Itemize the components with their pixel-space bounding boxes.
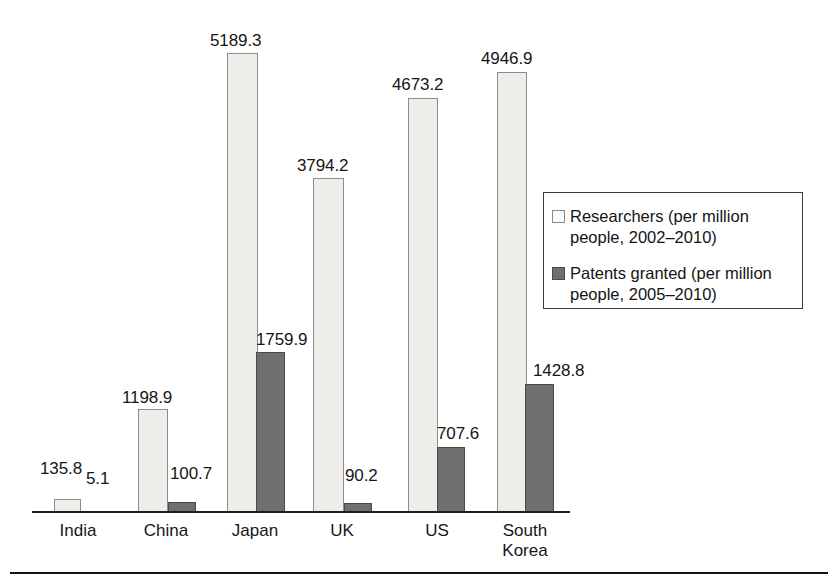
value-label-india-researchers: 135.8 xyxy=(40,460,82,478)
bar-japan-patents xyxy=(256,352,285,512)
legend-label-patents: Patents granted (per million people, 200… xyxy=(570,263,772,305)
bar-japan-researchers xyxy=(227,53,258,512)
value-label-china-patents: 100.7 xyxy=(170,465,212,483)
value-label-korea-researchers: 4946.9 xyxy=(481,50,532,68)
bottom-divider-rule xyxy=(10,572,828,574)
value-label-japan-patents: 1759.9 xyxy=(256,331,307,349)
bar-chart-plot-area: 135.8 5.1 India 1198.9 100.7 China 5189.… xyxy=(0,0,833,587)
value-label-korea-patents: 1428.8 xyxy=(533,362,584,380)
legend-item-researchers: Researchers (per million people, 2002–20… xyxy=(552,206,792,248)
bar-china-researchers xyxy=(138,409,168,512)
axis-label-china: China xyxy=(116,521,216,541)
bar-us-researchers xyxy=(408,98,438,512)
value-label-us-patents: 707.6 xyxy=(437,425,479,443)
legend-label-researchers: Researchers (per million people, 2002–20… xyxy=(570,206,749,248)
legend-swatch-patents-icon xyxy=(552,267,565,280)
legend-swatch-researchers-icon xyxy=(552,210,565,223)
axis-label-india: India xyxy=(28,521,128,541)
chart-legend: Researchers (per million people, 2002–20… xyxy=(543,192,803,309)
axis-label-south-korea: South Korea xyxy=(475,521,575,561)
x-axis-line xyxy=(32,511,570,513)
bar-us-patents xyxy=(437,447,465,512)
value-label-us-researchers: 4673.2 xyxy=(392,76,443,94)
axis-label-uk: UK xyxy=(292,521,392,541)
bar-uk-researchers xyxy=(313,178,344,512)
bar-korea-researchers xyxy=(497,72,527,512)
axis-label-us: US xyxy=(387,521,487,541)
value-label-china-researchers: 1198.9 xyxy=(122,389,172,407)
chart-page: 135.8 5.1 India 1198.9 100.7 China 5189.… xyxy=(0,0,833,587)
value-label-uk-researchers: 3794.2 xyxy=(297,157,348,175)
legend-item-patents: Patents granted (per million people, 200… xyxy=(552,263,792,305)
value-label-uk-patents: 90.2 xyxy=(345,467,378,485)
axis-label-japan: Japan xyxy=(205,521,305,541)
value-label-japan-researchers: 5189.3 xyxy=(210,32,261,50)
value-label-india-patents: 5.1 xyxy=(86,470,109,488)
bar-korea-patents xyxy=(525,384,554,512)
